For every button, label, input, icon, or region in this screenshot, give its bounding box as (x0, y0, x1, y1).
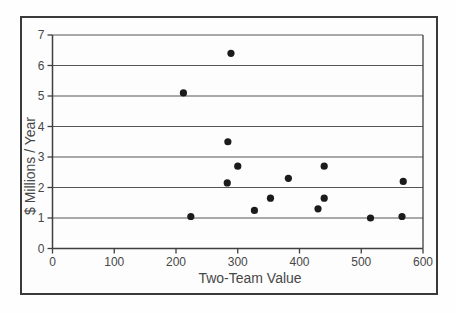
data-point-layer (180, 50, 407, 222)
x-axis-title: Two-Team Value (198, 270, 301, 286)
data-point (398, 213, 405, 220)
x-tick-label: 200 (166, 255, 186, 269)
scatter-plot: 012345670100200300400500600 $ Millions /… (22, 18, 436, 293)
x-tick-label: 300 (228, 255, 248, 269)
y-tick-label: 3 (38, 150, 45, 164)
x-tick-label: 0 (49, 255, 56, 269)
x-tick-label: 500 (351, 255, 371, 269)
figure-frame: 012345670100200300400500600 $ Millions /… (20, 16, 438, 295)
data-point (251, 207, 258, 214)
y-tick-label: 1 (38, 211, 45, 225)
data-point (400, 178, 407, 185)
y-tick-label: 2 (38, 181, 45, 195)
grid-layer (53, 35, 424, 218)
data-point (224, 138, 231, 145)
chart-screenshot: 012345670100200300400500600 $ Millions /… (0, 0, 456, 313)
y-tick-label: 0 (38, 242, 45, 256)
data-point (187, 213, 194, 220)
x-tick-label: 600 (413, 255, 433, 269)
axis-layer: 012345670100200300400500600 (38, 28, 434, 269)
data-point (285, 175, 292, 182)
y-axis-title: $ Millions / Year (22, 117, 38, 215)
y-tick-label: 5 (38, 89, 45, 103)
y-tick-label: 6 (38, 59, 45, 73)
data-point (367, 214, 374, 221)
data-point (224, 179, 231, 186)
data-point (227, 50, 234, 57)
y-tick-label: 4 (38, 120, 45, 134)
data-point (321, 163, 328, 170)
y-tick-label: 7 (38, 28, 45, 42)
data-point (180, 89, 187, 96)
data-point (267, 195, 274, 202)
x-tick-label: 100 (104, 255, 124, 269)
data-point (321, 195, 328, 202)
x-tick-label: 400 (289, 255, 309, 269)
data-point (234, 163, 241, 170)
data-point (314, 205, 321, 212)
